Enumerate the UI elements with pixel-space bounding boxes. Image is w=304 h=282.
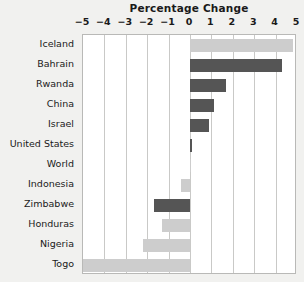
bar	[143, 239, 190, 252]
bar-row	[83, 75, 295, 95]
bar-row	[83, 95, 295, 115]
y-axis-label: Honduras	[0, 218, 78, 229]
bar-row	[83, 115, 295, 135]
bar-row	[83, 175, 295, 195]
x-tick-label: 4	[271, 16, 278, 27]
bar-row	[83, 35, 295, 55]
bar-row	[83, 195, 295, 215]
bar	[190, 139, 192, 152]
y-axis-label: United States	[0, 138, 78, 149]
y-axis-label: China	[0, 98, 78, 109]
y-axis-label: Iceland	[0, 38, 78, 49]
x-tick-label: 0	[186, 16, 193, 27]
bar-row	[83, 155, 295, 175]
bar	[181, 179, 190, 192]
y-axis-label: Israel	[0, 118, 78, 129]
bar	[190, 59, 282, 72]
x-tick-label: −1	[160, 16, 175, 27]
y-axis-category-labels: IcelandBahrainRwandaChinaIsraelUnited St…	[0, 34, 78, 274]
bar	[190, 119, 209, 132]
y-axis-label: Nigeria	[0, 238, 78, 249]
bar	[190, 159, 191, 172]
x-axis-tick-labels: −5−4−3−2−1012345	[82, 16, 296, 30]
bar	[190, 79, 226, 92]
bar-row	[83, 255, 295, 275]
bar-row	[83, 135, 295, 155]
bar	[154, 199, 190, 212]
x-tick-label: −2	[139, 16, 154, 27]
y-axis-label: Rwanda	[0, 78, 78, 89]
bar-row	[83, 215, 295, 235]
y-axis-label: Indonesia	[0, 178, 78, 189]
bar	[162, 219, 190, 232]
y-axis-label: World	[0, 158, 78, 169]
x-tick-label: −3	[118, 16, 133, 27]
bar-row	[83, 235, 295, 255]
y-axis-label: Bahrain	[0, 58, 78, 69]
y-axis-label: Togo	[0, 258, 78, 269]
bar	[83, 259, 190, 272]
x-tick-label: −4	[96, 16, 111, 27]
x-tick-label: 1	[207, 16, 214, 27]
chart-title: Percentage Change	[82, 2, 296, 14]
bar	[190, 99, 214, 112]
plot-area	[82, 34, 296, 274]
bar	[190, 39, 293, 52]
x-tick-label: 3	[250, 16, 257, 27]
x-tick-label: −5	[75, 16, 90, 27]
bar-row	[83, 55, 295, 75]
x-tick-label: 5	[293, 16, 300, 27]
y-axis-label: Zimbabwe	[0, 198, 78, 209]
x-tick-label: 2	[228, 16, 235, 27]
percentage-change-bar-chart: Percentage Change −5−4−3−2−1012345 Icela…	[0, 0, 304, 282]
